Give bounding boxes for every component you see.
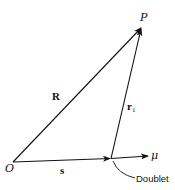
diagram-lines bbox=[0, 0, 175, 190]
label-vector-s: s bbox=[60, 165, 64, 176]
doublet-vector-diagram: P O R r1 s μ Doublet bbox=[0, 0, 175, 190]
label-doublet: Doublet bbox=[136, 174, 169, 184]
vector-r1 bbox=[111, 29, 141, 159]
doublet-leader-line bbox=[113, 161, 135, 178]
label-vector-r1: r1 bbox=[127, 101, 135, 114]
label-point-P: P bbox=[140, 12, 147, 23]
label-origin-O: O bbox=[5, 163, 14, 174]
vector-s bbox=[13, 159, 110, 163]
label-vector-mu: μ bbox=[151, 150, 158, 161]
r1-subscript: 1 bbox=[132, 106, 136, 114]
vector-R bbox=[13, 28, 141, 162]
label-vector-R: R bbox=[52, 91, 60, 102]
vector-mu bbox=[111, 156, 148, 159]
